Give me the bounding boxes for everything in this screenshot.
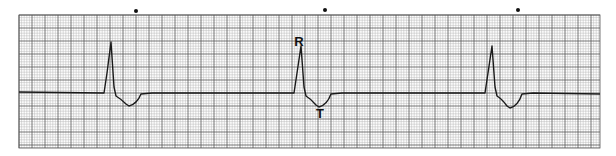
r-wave-label: R <box>294 34 304 49</box>
t-wave-label: T <box>316 106 324 121</box>
time-marker-dot <box>323 8 327 12</box>
time-marker-dot <box>134 9 138 13</box>
time-markers <box>134 8 520 13</box>
ecg-strip: R T <box>0 0 616 156</box>
time-marker-dot <box>516 8 520 12</box>
